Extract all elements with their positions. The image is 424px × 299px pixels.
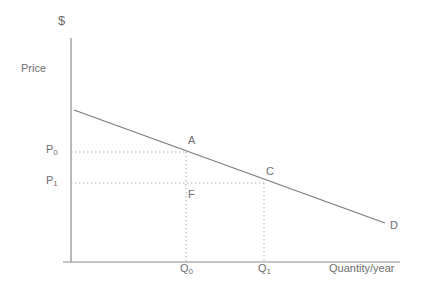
price-tick-p1-subscript: 1	[53, 179, 57, 188]
x-axis-label: Quantity/year	[329, 263, 394, 274]
y-axis-label: Price	[21, 63, 46, 74]
point-label-a: A	[188, 135, 195, 146]
diagram-canvas	[0, 0, 424, 299]
quantity-tick-q1-text: Q	[258, 262, 267, 274]
quantity-tick-q0: Q0	[180, 263, 193, 274]
point-label-f: F	[188, 189, 195, 200]
quantity-tick-q0-subscript: 0	[189, 267, 193, 276]
quantity-tick-q1: Q1	[258, 263, 271, 274]
demand-curve-figure: $ Price Quantity/year P0 P1 Q0 Q1 A C F …	[0, 0, 424, 299]
y-axis-currency-symbol: $	[58, 14, 65, 27]
price-tick-p0: P0	[46, 144, 58, 155]
quantity-tick-q0-text: Q	[180, 262, 189, 274]
quantity-tick-q1-subscript: 1	[267, 267, 271, 276]
point-label-c: C	[266, 166, 274, 177]
price-tick-p1: P1	[46, 175, 58, 186]
price-tick-p0-subscript: 0	[53, 148, 57, 157]
demand-curve-line	[74, 110, 385, 223]
demand-curve-label: D	[390, 220, 398, 231]
